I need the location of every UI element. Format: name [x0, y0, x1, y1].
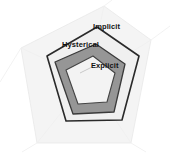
spoke-ext-top	[104, 0, 112, 6]
series-label-hysterical: Hysterical	[62, 41, 99, 49]
radar-chart-canvas	[0, 0, 172, 154]
radar-chart: Implicit Hysterical Explicit	[0, 0, 172, 154]
series-label-implicit: Implicit	[93, 23, 120, 31]
spoke-ext-right	[151, 26, 170, 40]
spoke-ext-left	[0, 48, 21, 82]
spoke-ext-bottom-right	[131, 143, 146, 152]
series-label-explicit: Explicit	[91, 62, 118, 70]
spoke-ext-bottom-left	[22, 143, 37, 152]
